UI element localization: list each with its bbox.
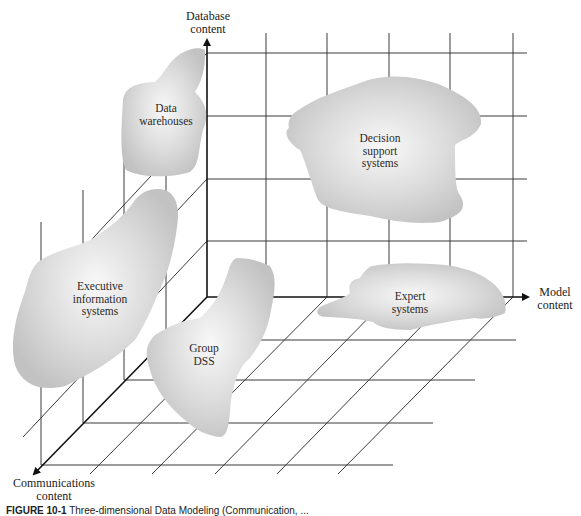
executive-information-systems-label: Executive information systems <box>60 280 140 318</box>
region-label-line: Data <box>130 102 202 115</box>
group-dss-label: Group DSS <box>178 342 230 367</box>
model-axis-label: Model content <box>530 286 580 312</box>
decision-support-systems-label: Decision support systems <box>345 132 415 170</box>
region-label-line: systems <box>60 305 140 318</box>
region-label-line: information <box>60 293 140 306</box>
region-label-line: warehouses <box>130 115 202 128</box>
region-label-line: systems <box>378 303 442 316</box>
figure-caption: FIGURE 10-1 Three-dimensional Data Model… <box>6 505 309 516</box>
database-axis-label: Database content <box>172 10 244 36</box>
communications-axis-label: Communications content <box>6 477 102 503</box>
figure-caption-text: Three-dimensional Data Modeling (Communi… <box>69 505 309 516</box>
communications-axis-label-line2: content <box>6 490 102 503</box>
region-label-line: DSS <box>178 355 230 368</box>
expert-systems-label: Expert systems <box>378 290 442 315</box>
data-warehouses-label: Data warehouses <box>130 102 202 127</box>
figure-caption-label: FIGURE 10-1 <box>6 505 67 516</box>
database-axis-label-line2: content <box>172 23 244 36</box>
region-label-line: Executive <box>60 280 140 293</box>
region-label-line: support <box>345 145 415 158</box>
region-label-line: systems <box>345 157 415 170</box>
region-label-line: Group <box>178 342 230 355</box>
region-label-line: Expert <box>378 290 442 303</box>
region-label-line: Decision <box>345 132 415 145</box>
model-axis-label-line2: content <box>530 299 580 312</box>
